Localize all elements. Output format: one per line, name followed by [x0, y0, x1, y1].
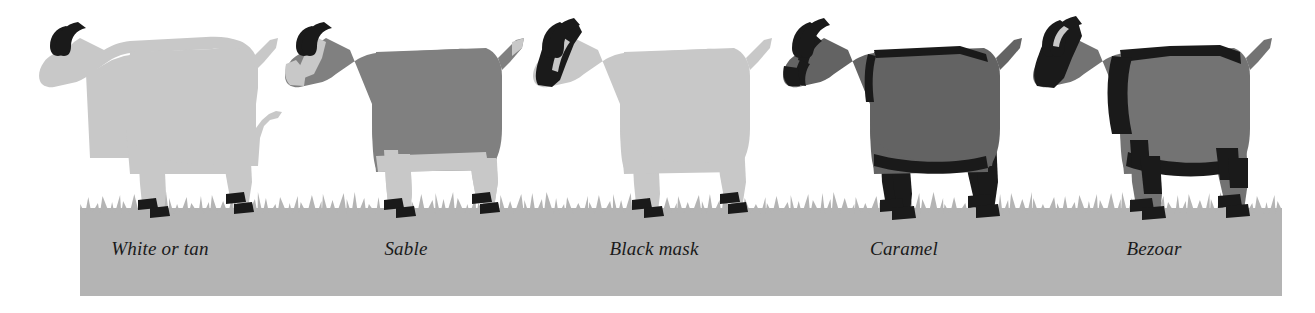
hoof-hind-near	[1226, 204, 1250, 218]
hoof-hind-near	[976, 204, 1000, 218]
goat-tail-group	[746, 38, 772, 70]
goat-silhouette	[272, 8, 540, 230]
goat-barrel	[620, 48, 750, 168]
hoof-front-near	[892, 206, 916, 220]
goat-tail-group	[1246, 38, 1272, 70]
caption-black-mask: Black mask	[520, 238, 788, 260]
goat-silhouette	[1020, 8, 1288, 230]
goat-silhouette	[520, 8, 788, 230]
goat-silhouette	[770, 8, 1038, 230]
goat-silhouette	[26, 8, 294, 230]
caption-sable: Sable	[272, 238, 540, 260]
caption-bezoar: Bezoar	[1020, 238, 1288, 260]
caption-white-or-tan: White or tan	[26, 238, 294, 260]
hoof-hind-far	[226, 192, 246, 204]
hoof-hind-far	[472, 192, 492, 204]
goat-colour-variant-figure: White or tan	[0, 0, 1315, 313]
hoof-front-near	[396, 206, 416, 218]
goat-figure-bezoar	[1020, 8, 1288, 230]
goat-tail-group	[996, 38, 1022, 70]
goat-figure-white-or-tan	[26, 8, 294, 230]
black-hindleg-band-near	[1228, 158, 1248, 188]
hoof-front-near	[1142, 206, 1166, 220]
goat-barrel	[870, 48, 1000, 168]
goat-figure-caramel	[770, 8, 1038, 230]
goat-figure-black-mask	[520, 8, 788, 230]
hoof-front-near	[150, 206, 170, 218]
tail	[996, 38, 1022, 70]
tail	[746, 38, 772, 70]
hoof-hind-near	[480, 202, 500, 214]
caption-caramel: Caramel	[770, 238, 1038, 260]
goat-figure-sable	[272, 8, 540, 230]
hoof-hind-near	[728, 202, 748, 214]
hoof-front-near	[644, 206, 664, 218]
goat-body-group	[783, 38, 1000, 174]
hoof-hind-near	[234, 202, 254, 214]
tail	[1246, 38, 1272, 70]
hoof-hind-far	[720, 192, 740, 204]
